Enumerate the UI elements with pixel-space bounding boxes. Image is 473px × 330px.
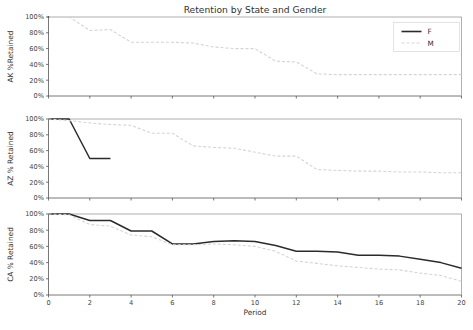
panel-AK-yticklabel-60: 60% (29, 45, 44, 53)
panel-AZ-yticklabel-60: 60% (29, 147, 44, 155)
panel-AK-yticklabel-40: 40% (29, 61, 44, 69)
panel-AK-yticklabel-20: 20% (29, 77, 44, 85)
xticklabel-12: 12 (292, 299, 300, 307)
panel-CA-yticklabel-60: 60% (29, 243, 44, 251)
panel-CA-yticklabel-80: 80% (29, 227, 44, 235)
legend-label-M: M (428, 39, 434, 48)
chart-canvas: Retention by State and Gender0%20%40%60%… (0, 0, 473, 330)
xticklabel-10: 10 (251, 299, 259, 307)
panel-CA-yticklabel-40: 40% (29, 259, 44, 267)
panel-CA-series-F (49, 214, 462, 268)
panel-AK-yticklabel-80: 80% (29, 29, 44, 37)
panel-AK-yticklabel-100: 100% (25, 13, 44, 21)
xticklabel-4: 4 (129, 299, 133, 307)
panel-AK-ylabel: AK %Retained (6, 30, 15, 82)
panel-AK-yticklabel-0: 0% (34, 92, 44, 100)
panel-AZ-yticklabel-80: 80% (29, 131, 44, 139)
panel-AZ-yticklabel-40: 40% (29, 163, 44, 171)
panel-CA-ylabel: CA % Retained (6, 227, 15, 282)
xaxis-label: Period (243, 308, 266, 317)
legend-box (394, 23, 460, 52)
panel-AZ-ylabel: AZ % Retained (6, 131, 15, 186)
panel-CA-yticklabel-20: 20% (29, 275, 44, 283)
xticklabel-14: 14 (333, 299, 341, 307)
panel-CA-axes (49, 214, 462, 295)
xticklabel-18: 18 (416, 299, 424, 307)
xticklabel-2: 2 (88, 299, 92, 307)
panel-AZ-yticklabel-100: 100% (25, 115, 44, 123)
xticklabel-6: 6 (170, 299, 174, 307)
panel-CA-yticklabel-100: 100% (25, 210, 44, 218)
xticklabel-0: 0 (46, 299, 50, 307)
panel-CA-series-M (49, 214, 462, 281)
legend-label-F: F (428, 27, 432, 36)
panel-AZ-series-M (49, 119, 462, 173)
panel-AZ-yticklabel-0: 0% (34, 194, 44, 202)
xticklabel-8: 8 (212, 299, 216, 307)
panel-AZ-series-F (49, 119, 111, 159)
panel-CA-yticklabel-0: 0% (34, 291, 44, 299)
xticklabel-16: 16 (375, 299, 383, 307)
chart-figure: Retention by State and Gender0%20%40%60%… (0, 0, 473, 330)
xticklabel-20: 20 (457, 299, 465, 307)
chart-title: Retention by State and Gender (184, 4, 327, 15)
panel-AZ-yticklabel-20: 20% (29, 179, 44, 187)
